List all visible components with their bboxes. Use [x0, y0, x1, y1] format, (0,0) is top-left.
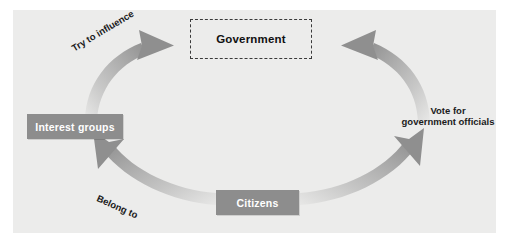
node-government-label: Government: [216, 33, 286, 45]
edge-label-vote-for-government-officials: Vote for government officials: [400, 106, 496, 128]
edge-label-vote-for-line2: government officials: [400, 117, 496, 128]
arrow-interest-groups-to-government: [85, 30, 174, 120]
node-citizens-label: Citizens: [237, 197, 279, 209]
arrow-citizens-to-vote: [300, 128, 424, 205]
node-interest-groups-label: Interest groups: [35, 121, 114, 133]
arrow-citizens-to-interest-groups: [93, 131, 216, 205]
node-government: Government: [190, 19, 312, 59]
diagram-root: Government Interest groups Citizens Try …: [0, 0, 509, 246]
node-citizens: Citizens: [216, 190, 299, 215]
node-interest-groups: Interest groups: [27, 114, 123, 139]
